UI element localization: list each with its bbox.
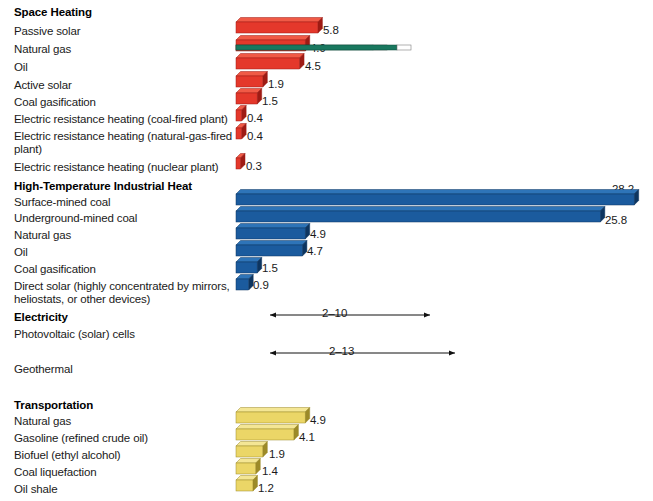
bar-transportation-0-side: [305, 408, 310, 424]
row-label-erh-coal-fired: Electric resistance heating (coal-fired …: [14, 113, 228, 126]
bar-space-heating-6-top: [236, 124, 246, 129]
bar-industrial-heat-4-top: [236, 258, 262, 263]
value-label-active-solar: 1.9: [268, 78, 284, 90]
undefined-seg-white: [397, 45, 411, 50]
row-label-coal-gasification-ih: Coal gasification: [14, 263, 96, 276]
row-label-erh-natural-gas-fired: Electric resistance heating (natural-gas…: [14, 130, 239, 156]
bar-industrial-heat-5-top: [236, 275, 253, 280]
bar-industrial-heat-2: [236, 224, 310, 240]
value-label-erh-nuclear: 0.3: [246, 160, 262, 172]
row-label-underground-mined-coal: Underground-mined coal: [14, 212, 137, 225]
bar-transportation-1-top: [236, 425, 298, 430]
bar-space-heating-6-side: [242, 124, 247, 140]
row-label-coal-gasification-sh: Coal gasification: [14, 96, 96, 109]
bar-space-heating-0-top: [236, 18, 322, 23]
bar-space-heating-5-top: [236, 106, 246, 111]
bar-space-heating-1-face: [236, 40, 305, 51]
bar-industrial-heat-1-face: [236, 211, 600, 222]
bar-transportation-4-top: [236, 476, 257, 481]
row-label-oil-ih: Oil: [14, 246, 28, 259]
bar-industrial-heat-3: [236, 241, 307, 257]
bar-industrial-heat-0-side: [634, 190, 639, 206]
range-label-geothermal: 2–13: [325, 345, 358, 357]
row-label-direct-solar: Direct solar (highly concentrated by mir…: [14, 280, 239, 306]
dimension-arrow-electricity-1-arrowhead-left: [270, 350, 276, 355]
bar-space-heating-4-face: [236, 93, 257, 104]
bar-transportation-4: [236, 476, 257, 492]
undefined-seg-white: [373, 45, 387, 50]
bar-space-heating-2-side: [300, 54, 305, 70]
undefined-seg-green: [236, 45, 373, 50]
dimension-arrow-electricity-1: [270, 350, 455, 355]
section-title-space-heating: Space Heating: [14, 6, 92, 18]
bar-industrial-heat-1-top: [236, 207, 605, 212]
bar-transportation-0: [236, 408, 310, 424]
bar-space-heating-3: [236, 72, 267, 88]
bar-space-heating-7-side: [241, 154, 246, 170]
row-label-oil-sh: Oil: [14, 61, 28, 74]
bar-industrial-heat-2-face: [236, 228, 305, 239]
value-label-erh-natural-gas-fired: 0.4: [247, 130, 263, 142]
value-label-direct-solar: 0.9: [253, 279, 269, 291]
bar-industrial-heat-2-side: [305, 224, 310, 240]
value-label-gasoline: 4.1: [299, 431, 315, 443]
bar-space-heating-2-face: [236, 58, 300, 69]
bar-space-heating-1-side: [305, 36, 310, 52]
bar-industrial-heat-4-face: [236, 262, 257, 273]
bar-transportation-2-top: [236, 442, 267, 447]
value-label-oil-shale: 1.2: [258, 482, 274, 494]
bar-transportation-3-face: [236, 463, 256, 474]
value-label-passive-solar: 5.8: [323, 24, 339, 36]
row-label-oil-shale: Oil shale: [14, 483, 57, 496]
bar-transportation-3-side: [256, 459, 261, 475]
bar-space-heating-5-side: [242, 106, 247, 122]
value-label-coal-gasification-sh: 1.5: [262, 95, 278, 107]
bar-space-heating-4-top: [236, 89, 262, 94]
row-label-natural-gas-sh: Natural gas: [14, 43, 71, 56]
bar-space-heating-1: [236, 36, 310, 52]
dimension-arrow-electricity-0-arrowhead-left: [270, 312, 276, 317]
bar-space-heating-3-face: [236, 76, 263, 87]
row-label-active-solar: Active solar: [14, 79, 72, 92]
bar-transportation-3-top: [236, 459, 260, 464]
value-label-oil-sh: 4.5: [305, 60, 321, 72]
bar-space-heating-7-face: [236, 158, 241, 169]
row-label-photovoltaic-cells: Photovoltaic (solar) cells: [14, 328, 135, 341]
bar-transportation-0-top: [236, 408, 310, 413]
bar-industrial-heat-1: [236, 207, 605, 223]
value-label-biofuel: 1.9: [269, 448, 285, 460]
bar-transportation-2-side: [263, 442, 268, 458]
bar-space-heating-0-side: [318, 18, 323, 34]
range-label-photovoltaic: 2–10: [318, 307, 351, 319]
row-label-biofuel: Biofuel (ethyl alcohol): [14, 449, 121, 462]
bar-industrial-heat-0: [236, 190, 639, 206]
bar-industrial-heat-4-side: [257, 258, 262, 274]
value-label-coal-liquefaction: 1.4: [262, 465, 278, 477]
section-title-transportation: Transportation: [14, 399, 93, 411]
bar-industrial-heat-0-top: [236, 190, 639, 195]
bar-space-heating-2: [236, 54, 304, 70]
row-label-gasoline: Gasoline (refined crude oil): [14, 432, 148, 445]
bar-industrial-heat-4: [236, 258, 262, 274]
bar-industrial-heat-3-face: [236, 245, 302, 256]
bars-layer: [0, 0, 653, 501]
bar-transportation-0-face: [236, 412, 305, 423]
bar-space-heating-1-top: [236, 36, 310, 41]
bar-space-heating-2-top: [236, 54, 304, 59]
value-label-surface-mined-coal: 28.2: [612, 183, 634, 195]
value-label-oil-ih: 4.7: [307, 245, 323, 257]
section-title-electricity: Electricity: [14, 311, 68, 323]
value-label-natural-gas-sh: 4.9: [310, 42, 326, 54]
row-label-erh-nuclear: Electric resistance heating (nuclear pla…: [14, 161, 219, 174]
bar-industrial-heat-2-top: [236, 224, 310, 229]
value-label-coal-gasification-ih: 1.5: [262, 262, 278, 274]
value-label-erh-coal-fired: 0.4: [247, 112, 263, 124]
value-label-underground-mined-coal: 25.8: [605, 214, 627, 226]
row-label-surface-mined-coal: Surface-mined coal: [14, 196, 110, 209]
bar-transportation-1-face: [236, 429, 294, 440]
bar-transportation-3: [236, 459, 260, 475]
bar-space-heating-0-face: [236, 22, 318, 33]
energy-efficiency-chart: Space Heating Passive solar Natural gas …: [0, 0, 653, 501]
bar-space-heating-3-top: [236, 72, 267, 77]
dimension-arrow-electricity-1-arrowhead-right: [449, 350, 455, 355]
